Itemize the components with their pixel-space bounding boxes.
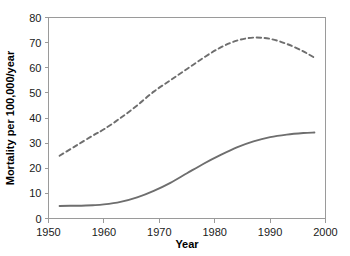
y-tick-label: 30: [29, 137, 41, 149]
plot-frame: [49, 18, 326, 219]
x-tick-label: 1990: [258, 226, 282, 238]
y-axis-title: Mortality per 100,000/year: [4, 50, 16, 185]
x-tick-label: 1980: [202, 226, 226, 238]
x-axis-title: Year: [175, 238, 199, 250]
mortality-line-chart: 01020304050607080 1950196019701980199020…: [0, 0, 350, 256]
data-series-group: [60, 38, 315, 206]
y-axis-tick-marks: [45, 18, 49, 219]
solid-lower-series: [60, 133, 315, 206]
y-tick-label: 20: [29, 162, 41, 174]
y-tick-label: 40: [29, 112, 41, 124]
x-tick-label: 1950: [36, 226, 60, 238]
y-tick-label: 10: [29, 187, 41, 199]
y-tick-label: 80: [29, 12, 41, 24]
x-tick-label: 1970: [147, 226, 171, 238]
x-tick-label: 1960: [92, 226, 116, 238]
y-tick-label: 70: [29, 37, 41, 49]
y-tick-label: 0: [35, 213, 41, 225]
dashed-upper-series: [60, 38, 315, 156]
y-axis-tick-labels: 01020304050607080: [29, 12, 41, 225]
y-tick-label: 50: [29, 87, 41, 99]
x-axis-tick-marks: [49, 219, 326, 223]
chart-canvas: 01020304050607080 1950196019701980199020…: [0, 0, 350, 256]
x-axis-tick-labels: 195019601970198019902000: [36, 226, 337, 238]
x-tick-label: 2000: [313, 226, 337, 238]
y-tick-label: 60: [29, 62, 41, 74]
